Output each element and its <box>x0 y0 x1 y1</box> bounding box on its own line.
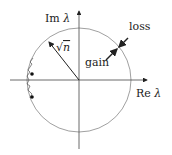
loss-arrow <box>119 38 128 47</box>
radius-label: √n <box>56 41 70 54</box>
outlier-eigenvalue-dot <box>30 72 34 76</box>
real-axis-label: Re λ <box>136 87 161 100</box>
loss-label: loss <box>129 20 151 33</box>
gain-label: gain <box>85 56 109 69</box>
eigenvalue-diagram: Im λ Re λ √n gain loss <box>0 0 172 155</box>
outlier-eigenvalue-dot <box>30 95 34 99</box>
imag-axis-label: Im λ <box>45 12 70 25</box>
eigenvalue-trajectory <box>27 58 33 98</box>
